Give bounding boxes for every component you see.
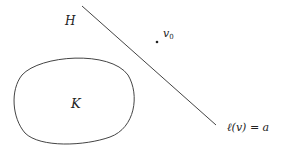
hyperplane-line	[82, 6, 216, 125]
diagram-canvas: H v0 K ℓ(v) = a	[0, 0, 285, 158]
label-k: K	[70, 96, 82, 111]
label-v0: v0	[163, 27, 174, 41]
label-hyperplane: ℓ(v) = a	[227, 121, 269, 134]
point-v0-dot	[156, 41, 159, 44]
label-h: H	[64, 14, 76, 28]
